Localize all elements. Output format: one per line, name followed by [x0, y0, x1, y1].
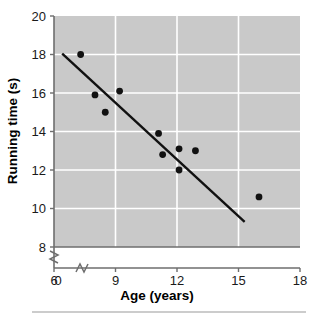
- x-axis-title: Age (years): [120, 288, 194, 303]
- svg-text:18: 18: [293, 273, 307, 288]
- svg-text:12: 12: [170, 273, 184, 288]
- svg-text:14: 14: [32, 124, 46, 139]
- svg-text:12: 12: [32, 163, 46, 178]
- svg-text:18: 18: [32, 47, 46, 62]
- svg-text:8: 8: [39, 240, 46, 255]
- scatter-plot-figure: 8101214161820 069121518 Age (years) Runn…: [0, 0, 315, 320]
- svg-text:20: 20: [32, 9, 46, 24]
- y-axis-title: Running time (s): [5, 78, 20, 185]
- svg-text:6: 6: [50, 273, 57, 288]
- chart-canvas: 8101214161820 069121518 Age (years) Runn…: [0, 0, 315, 320]
- svg-text:10: 10: [32, 201, 46, 216]
- svg-text:15: 15: [231, 273, 245, 288]
- svg-text:16: 16: [32, 86, 46, 101]
- svg-text:9: 9: [112, 273, 119, 288]
